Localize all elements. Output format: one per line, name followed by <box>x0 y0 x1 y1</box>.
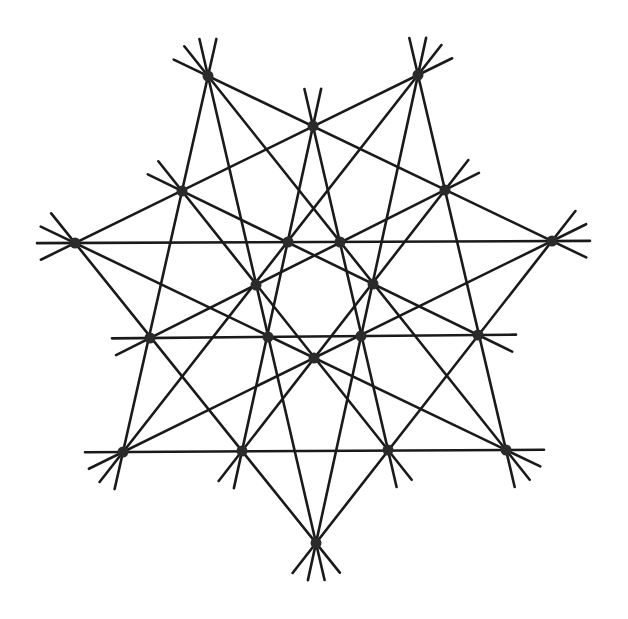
point-tip-7 <box>70 238 81 249</box>
configuration-line <box>112 335 516 339</box>
point-mid-1 <box>308 121 319 132</box>
configuration-line <box>199 39 324 580</box>
configuration-diagram <box>0 0 628 619</box>
configuration-line <box>158 161 411 479</box>
diagram-svg <box>0 0 628 619</box>
point-inner-3 <box>368 279 379 290</box>
configuration-line <box>184 46 529 479</box>
configuration-line <box>89 224 586 469</box>
point-inner-5 <box>309 353 320 364</box>
configuration-line <box>409 38 514 487</box>
point-mid-5 <box>237 446 248 457</box>
configuration-line <box>51 213 340 572</box>
point-tip-2 <box>413 70 424 81</box>
point-inner-1 <box>283 237 294 248</box>
configuration-line <box>219 160 469 481</box>
point-mid-4 <box>383 445 394 456</box>
point-tip-3 <box>547 236 558 247</box>
point-tip-4 <box>501 445 512 456</box>
lines-layer <box>37 38 590 580</box>
configuration-line <box>41 58 452 259</box>
point-tip-5 <box>311 538 322 549</box>
configuration-line <box>174 60 587 258</box>
point-inner-2 <box>335 237 346 248</box>
point-mid-3 <box>473 330 484 341</box>
point-inner-7 <box>251 280 262 291</box>
point-mid-2 <box>440 185 451 196</box>
configuration-line <box>85 450 544 452</box>
point-tip-6 <box>118 447 129 458</box>
point-mid-6 <box>145 333 156 344</box>
point-inner-4 <box>356 331 367 342</box>
configuration-line <box>37 241 590 243</box>
configuration-line <box>115 39 217 489</box>
point-tip-1 <box>203 71 214 82</box>
points-layer <box>70 70 558 549</box>
point-inner-6 <box>263 332 274 343</box>
point-mid-7 <box>177 186 188 197</box>
